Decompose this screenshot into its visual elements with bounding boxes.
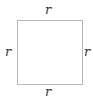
square-shape	[17, 20, 83, 85]
side-label-top: r	[45, 3, 51, 16]
side-label-bottom: r	[45, 85, 51, 98]
side-label-right: r	[84, 45, 90, 58]
side-label-left: r	[5, 45, 11, 58]
